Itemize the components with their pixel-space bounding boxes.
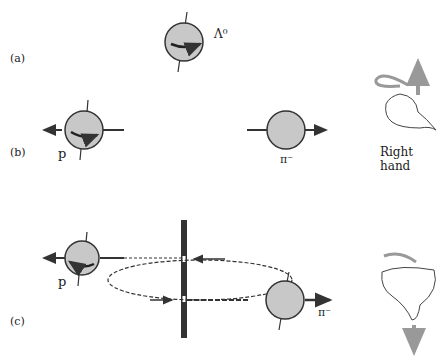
proton-label-b: p [58, 146, 66, 161]
panel-b-label: (b) [10, 146, 26, 159]
pion-label-b: π⁻ [280, 153, 293, 166]
lambda-label: Λ⁰ [214, 27, 227, 41]
mirror-plane [181, 220, 187, 338]
proton-label-c: p [58, 274, 66, 289]
right-hand-caption: Right hand [380, 145, 446, 173]
diagram-canvas [0, 0, 446, 360]
figure: (a) Λ⁰ (b) p π⁻ Right hand (c) p π⁻ [0, 0, 446, 360]
mirror-ellipse [108, 260, 292, 300]
right-hand-thumb-up-icon [376, 62, 436, 130]
proton-sphere-b [44, 100, 124, 160]
pion-sphere-c [187, 272, 330, 330]
hand-thumb-down-icon [382, 254, 436, 352]
pion-sphere-b [247, 111, 326, 149]
panel-c-label: (c) [10, 315, 25, 328]
pion-label-c: π⁻ [318, 306, 331, 319]
lambda-sphere [165, 12, 203, 72]
panel-a-label: (a) [10, 52, 25, 65]
